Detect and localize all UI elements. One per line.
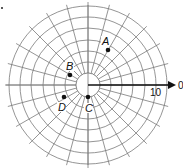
point-d-label: D xyxy=(58,101,66,113)
arrow-head-icon xyxy=(168,81,176,89)
point-b-label: B xyxy=(66,60,73,72)
zero-label: 0 xyxy=(178,80,183,91)
corner-dot xyxy=(1,7,3,9)
ten-tick-label: 10 xyxy=(150,87,162,98)
point-a-label: A xyxy=(101,35,109,47)
point-d-marker xyxy=(62,95,67,100)
point-c-marker xyxy=(86,95,91,100)
polar-grid-diagram: 0 10 ABCD xyxy=(0,0,183,168)
point-c-label: C xyxy=(85,102,93,114)
point-a-marker xyxy=(106,48,111,53)
point-b-marker xyxy=(68,73,73,78)
